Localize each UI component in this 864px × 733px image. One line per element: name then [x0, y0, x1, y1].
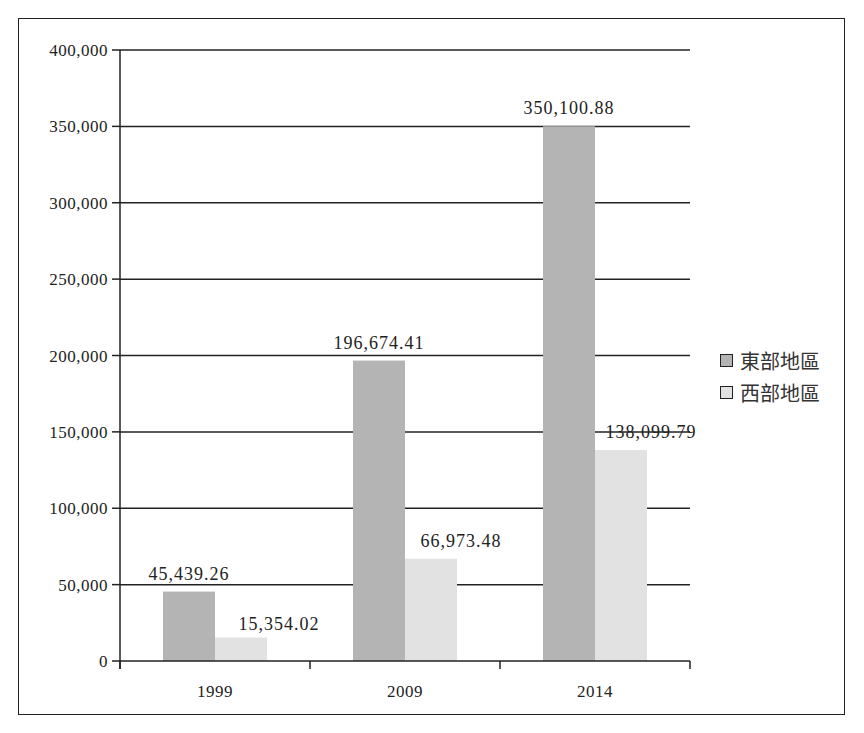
bars [163, 126, 647, 661]
data-label: 45,439.26 [149, 564, 230, 584]
y-tick-label: 150,000 [49, 423, 108, 442]
x-tick-label: 1999 [197, 682, 233, 701]
legend-swatch-east [720, 354, 733, 367]
y-tick-label: 50,000 [58, 576, 108, 595]
data-label: 15,354.02 [239, 614, 320, 634]
bar [543, 126, 595, 661]
data-label: 66,973.48 [421, 531, 502, 551]
bar [595, 450, 647, 661]
x-tick-label: 2014 [577, 682, 613, 701]
data-label: 196,674.41 [334, 333, 425, 353]
legend-item-west: 西部地區 [720, 376, 820, 408]
bar [215, 638, 267, 661]
bar [163, 592, 215, 661]
y-tick-label: 350,000 [49, 117, 108, 136]
y-tick-label: 0 [99, 652, 108, 671]
legend-label-east: 東部地區 [740, 346, 820, 375]
x-tick-label: 2009 [387, 682, 423, 701]
legend-swatch-west [720, 386, 733, 399]
y-tick-label: 100,000 [49, 499, 108, 518]
data-label: 138,099.79 [606, 422, 697, 442]
legend: 東部地區 西部地區 [720, 344, 820, 408]
y-tick-label: 200,000 [49, 347, 108, 366]
legend-label-west: 西部地區 [740, 378, 820, 407]
y-tick-label: 250,000 [49, 270, 108, 289]
y-tick-label: 300,000 [49, 194, 108, 213]
bar [353, 361, 405, 661]
legend-item-east: 東部地區 [720, 344, 820, 376]
y-tick-label: 400,000 [49, 41, 108, 60]
bar [405, 559, 457, 661]
data-label: 350,100.88 [524, 98, 615, 118]
